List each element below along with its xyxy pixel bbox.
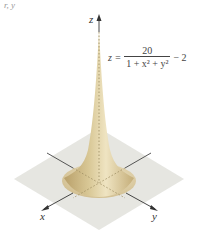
equation-fraction: 20 1 + x² + y² — [124, 45, 170, 69]
x-axis-label: x — [40, 211, 45, 222]
equation-denominator: 1 + x² + y² — [124, 56, 170, 69]
equation-tail: − 2 — [173, 52, 186, 63]
z-axis-arrow-icon — [97, 14, 102, 21]
z-axis-label: z — [89, 14, 93, 25]
y-axis-label: y — [152, 211, 157, 222]
equation-numerator: 20 — [140, 45, 154, 56]
surface-equation: z = 20 1 + x² + y² − 2 — [108, 45, 187, 69]
equation-lhs: z = — [108, 52, 121, 63]
surface-plot — [0, 0, 207, 234]
